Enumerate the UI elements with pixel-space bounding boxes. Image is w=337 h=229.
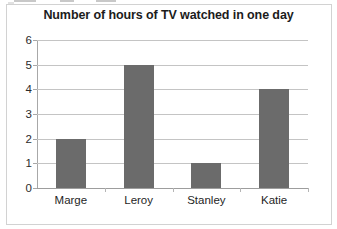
y-tick-label-1: 1 bbox=[6, 157, 32, 169]
y-tick-label-2: 2 bbox=[6, 133, 32, 145]
x-tick-mark-2 bbox=[173, 188, 174, 192]
gridline-5 bbox=[37, 65, 308, 66]
bar-leroy bbox=[124, 65, 154, 188]
bar-katie bbox=[259, 89, 289, 188]
x-tick-label-marge: Marge bbox=[37, 194, 105, 206]
y-tick-label-4: 4 bbox=[6, 83, 32, 95]
plot-area bbox=[37, 40, 308, 188]
scan-artifact bbox=[60, 0, 74, 2]
chart-title: Number of hours of TV watched in one day bbox=[0, 8, 337, 22]
y-tick-label-5: 5 bbox=[6, 59, 32, 71]
y-tick-label-6: 6 bbox=[6, 34, 32, 46]
bar-chart-figure: Number of hours of TV watched in one day… bbox=[0, 0, 337, 229]
x-tick-label-stanley: Stanley bbox=[172, 194, 240, 206]
x-tick-label-katie: Katie bbox=[240, 194, 308, 206]
x-tick-mark-1 bbox=[105, 188, 106, 192]
bar-marge bbox=[56, 139, 86, 188]
y-tick-label-3: 3 bbox=[6, 108, 32, 120]
x-tick-mark-3 bbox=[240, 188, 241, 192]
x-axis-tick-labels: MargeLeroyStanleyKatie bbox=[37, 194, 308, 214]
scan-artifact bbox=[14, 0, 36, 2]
x-tick-mark-4 bbox=[308, 188, 309, 192]
bar-stanley bbox=[191, 163, 221, 188]
gridline-6 bbox=[37, 40, 308, 41]
y-axis-tick-labels: 0123456 bbox=[0, 40, 32, 188]
scan-artifact bbox=[96, 0, 116, 2]
y-tick-label-0: 0 bbox=[6, 182, 32, 194]
x-tick-label-leroy: Leroy bbox=[105, 194, 173, 206]
